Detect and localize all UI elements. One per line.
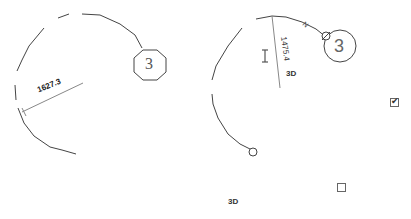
view-label-3d-top: 3D [286, 69, 296, 78]
right-arc [212, 16, 326, 150]
arc-end-marker-bottom [249, 148, 257, 156]
left-grid-bubble-label: 3 [145, 55, 153, 73]
checkmark-icon: ✔ [391, 96, 399, 106]
checkbox-unchecked[interactable] [337, 183, 346, 192]
right-radius-dimension [272, 16, 280, 88]
left-arc [15, 14, 142, 154]
i-beam-icon [262, 50, 268, 62]
view-label-3d-bottom: 3D [228, 197, 238, 206]
checkbox-checked[interactable]: ✔ [390, 98, 399, 107]
right-grid-bubble-label: 3 [334, 36, 344, 57]
drawing-canvas [0, 0, 411, 219]
